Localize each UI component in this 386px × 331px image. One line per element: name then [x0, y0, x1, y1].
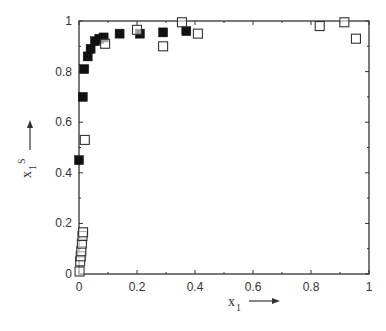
y-axis-label: x 1 S [16, 158, 38, 178]
data-series [75, 18, 361, 276]
y-tick-label: 0.6 [55, 115, 72, 129]
right-arrow-icon [272, 298, 280, 304]
y-axis-ticks: 00.20.40.60.81 [55, 14, 369, 281]
y-tick-label: 0 [65, 267, 72, 281]
open-square-marker [80, 135, 89, 144]
x-tick-label: 0.4 [187, 280, 204, 294]
open-square-marker [133, 25, 142, 34]
open-square-marker [177, 18, 186, 27]
filled-square-marker [78, 92, 87, 101]
y-axis-label-sup: S [16, 158, 27, 164]
filled-square-marker [182, 27, 191, 36]
filled-square-marker [75, 156, 84, 165]
filled-square-series [75, 27, 191, 165]
x-tick-label: 0.6 [245, 280, 262, 294]
open-square-marker [75, 267, 84, 276]
x-tick-label: 0.2 [129, 280, 146, 294]
y-axis-arrow [27, 120, 33, 150]
x-tick-label: 0 [76, 280, 83, 294]
x-axis-label-main: x [228, 294, 235, 309]
open-square-marker [159, 42, 168, 51]
open-square-marker [101, 39, 110, 48]
x-axis-label-sub: 1 [236, 302, 241, 313]
up-arrow-icon [27, 120, 33, 128]
scatter-chart: 00.20.40.60.81 00.20.40.60.81 x 1 x 1 S [0, 0, 386, 331]
open-square-series [75, 18, 360, 276]
y-axis-label-main: x [19, 171, 34, 178]
x-axis-label: x 1 [228, 294, 280, 313]
open-square-marker [315, 22, 324, 31]
open-square-marker [340, 18, 349, 27]
y-axis-label-sub: 1 [27, 165, 38, 170]
filled-square-marker [80, 65, 89, 74]
filled-square-marker [159, 28, 168, 37]
open-square-marker [79, 228, 88, 237]
y-tick-label: 0.4 [55, 166, 72, 180]
x-axis-ticks: 00.20.40.60.81 [76, 21, 373, 294]
x-tick-label: 0.8 [303, 280, 320, 294]
y-tick-label: 0.8 [55, 65, 72, 79]
x-tick-label: 1 [366, 280, 373, 294]
open-square-marker [193, 29, 202, 38]
y-tick-label: 1 [65, 14, 72, 28]
open-square-marker [351, 34, 360, 43]
plot-frame [79, 21, 369, 274]
y-tick-label: 0.2 [55, 216, 72, 230]
filled-square-marker [115, 29, 124, 38]
